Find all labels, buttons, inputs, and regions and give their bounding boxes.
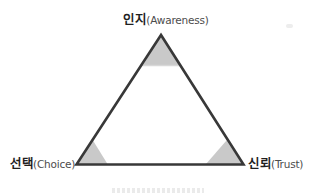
vertex-label-choice: 선택(Choice)	[10, 156, 75, 171]
vertex-label-awareness: 인지(Awareness)	[123, 12, 208, 27]
vertex-label-choice-en: (Choice)	[33, 158, 75, 170]
apex-corner-shade	[143, 35, 181, 66]
vertex-label-choice-ko: 선택	[10, 156, 33, 171]
vertex-label-trust-ko: 신뢰	[248, 156, 271, 171]
triangle-diagram: 인지(Awareness) 선택(Choice) 신뢰(Trust)	[0, 0, 310, 196]
vertex-label-trust: 신뢰(Trust)	[248, 156, 303, 171]
vertex-label-awareness-en: (Awareness)	[146, 14, 208, 26]
vertex-label-trust-en: (Trust)	[271, 158, 303, 170]
bottom-left-corner-shade	[78, 141, 108, 165]
vertex-label-awareness-ko: 인지	[123, 12, 146, 27]
faint-caption-fragment	[112, 188, 204, 193]
scan-smudge	[286, 24, 293, 28]
